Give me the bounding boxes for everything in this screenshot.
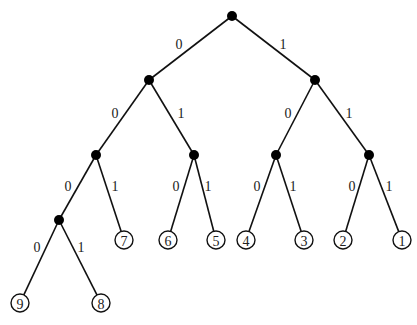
edge-label: 1 <box>280 37 287 52</box>
edge-label: 0 <box>34 240 41 255</box>
leaf-node: 2 <box>334 231 352 249</box>
edge-label: 1 <box>205 179 212 194</box>
internal-node <box>91 150 101 160</box>
internal-node <box>144 75 154 85</box>
edge <box>149 16 232 80</box>
binary-tree-diagram: 0101010101010101 987654321 <box>0 0 417 325</box>
edge <box>276 80 315 155</box>
leaf-node: 1 <box>393 231 411 249</box>
internal-node <box>54 215 64 225</box>
edge <box>59 220 97 295</box>
leaf-node: 5 <box>207 231 225 249</box>
leaf-label: 9 <box>17 297 24 312</box>
edge-label: 0 <box>176 37 183 52</box>
edge <box>96 80 149 155</box>
internal-node <box>271 150 281 160</box>
edge-label: 1 <box>386 179 393 194</box>
edge <box>369 155 399 232</box>
leaf-node: 3 <box>295 231 313 249</box>
leaf-label: 1 <box>399 234 406 249</box>
leaf-label: 2 <box>340 234 347 249</box>
edge <box>149 80 194 155</box>
leaf-label: 4 <box>243 234 250 249</box>
leaf-label: 5 <box>213 234 220 249</box>
leaf-label: 6 <box>165 234 172 249</box>
edge-label: 1 <box>290 179 297 194</box>
edge-label: 0 <box>112 106 119 121</box>
edge-label: 0 <box>349 179 356 194</box>
edge <box>24 220 59 295</box>
leaf-node: 4 <box>237 231 255 249</box>
internal-node <box>227 11 237 21</box>
leaf-label: 7 <box>121 234 128 249</box>
internal-node <box>310 75 320 85</box>
leaf-node: 9 <box>11 294 29 312</box>
edge-label: 0 <box>65 179 72 194</box>
internal-nodes <box>54 11 374 225</box>
leaf-node: 6 <box>159 231 177 249</box>
edge-label: 1 <box>112 179 119 194</box>
edge <box>315 80 369 155</box>
edge-label: 1 <box>78 240 85 255</box>
leaf-label: 8 <box>98 297 105 312</box>
edge-label: 0 <box>254 179 261 194</box>
edge <box>232 16 315 80</box>
edge-label: 1 <box>346 106 353 121</box>
edge-labels: 0101010101010101 <box>34 37 393 255</box>
internal-node <box>189 150 199 160</box>
leaf-label: 3 <box>301 234 308 249</box>
edge-label: 1 <box>178 106 185 121</box>
edge-label: 0 <box>173 179 180 194</box>
edge-label: 0 <box>285 106 292 121</box>
leaf-node: 7 <box>115 231 133 249</box>
leaf-node: 8 <box>92 294 110 312</box>
internal-node <box>364 150 374 160</box>
